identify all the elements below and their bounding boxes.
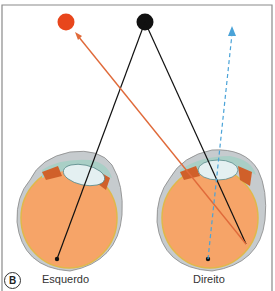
left-eye-label: Esquerdo bbox=[42, 273, 89, 285]
right-eye-label: Direito bbox=[193, 273, 225, 285]
panel-label-badge: B bbox=[4, 272, 21, 289]
vitreous-retina bbox=[162, 168, 258, 268]
lens bbox=[198, 160, 238, 180]
red-target-dot bbox=[58, 14, 75, 31]
strabismus-diagram bbox=[0, 0, 275, 291]
blue-arrowhead-icon bbox=[228, 26, 236, 36]
left-eye bbox=[17, 151, 122, 271]
